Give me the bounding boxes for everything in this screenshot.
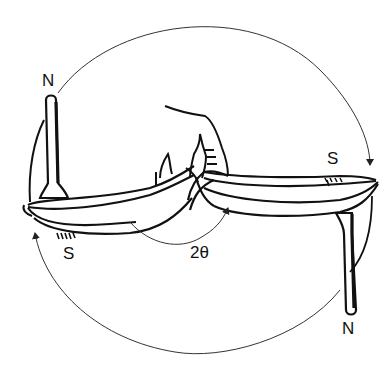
right-strip	[204, 172, 378, 216]
angle-arc	[130, 208, 228, 244]
right-fork	[336, 196, 372, 315]
label-left-top-N: N	[42, 72, 54, 89]
rotation-arc-top	[58, 27, 370, 165]
left-fork	[30, 96, 68, 203]
diagram-canvas: N S S N 2θ	[0, 0, 392, 370]
rotation-arc-bottom	[35, 233, 340, 354]
label-angle-2theta: 2θ	[190, 244, 209, 261]
label-right-bottom-N: N	[342, 320, 354, 337]
left-hatch-marks	[57, 233, 75, 239]
diagram-svg	[0, 0, 392, 370]
label-right-top-S: S	[327, 150, 338, 167]
label-left-bottom-S: S	[63, 245, 74, 262]
